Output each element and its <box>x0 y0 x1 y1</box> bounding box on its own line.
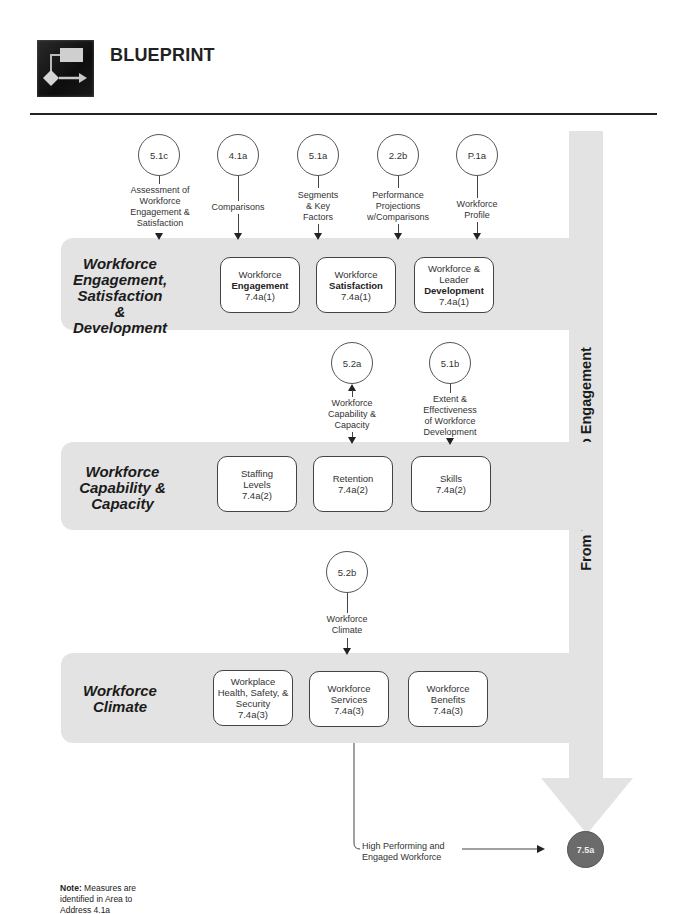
input-label-profile: Workforce Profile <box>442 199 512 221</box>
measure-box-satisfaction[interactable]: Workforce Satisfaction 7.4a(1) <box>316 257 396 313</box>
ref-circle-2-2b[interactable]: 2.2b <box>377 134 419 176</box>
connector <box>238 214 239 233</box>
input-label-effectiveness: Extent & Effectiveness of Workforce Deve… <box>410 394 490 438</box>
connector <box>318 224 319 233</box>
result-circle-7-5a[interactable]: 7.5a <box>567 831 604 868</box>
header-divider <box>30 113 657 115</box>
connector <box>347 638 348 648</box>
ref-circle-p-1a[interactable]: P.1a <box>456 134 498 176</box>
connector <box>477 176 478 198</box>
connector <box>347 593 348 613</box>
input-label-capability: Workforce Capability & Capacity <box>317 398 387 431</box>
arrow-down-icon <box>473 233 481 240</box>
arrow-down-icon <box>446 438 454 445</box>
ref-circle-5-2b[interactable]: 5.2b <box>326 551 368 593</box>
arrow-down-icon <box>314 233 322 240</box>
ref-circle-5-1a[interactable]: 5.1a <box>297 134 339 176</box>
flow-arrowhead-icon <box>541 778 633 834</box>
band-label-climate: Workforce Climate <box>75 683 165 715</box>
input-label-comparisons: Comparisons <box>198 202 278 213</box>
connector <box>398 224 399 233</box>
ref-circle-5-1c[interactable]: 5.1c <box>138 134 180 176</box>
connector <box>238 176 239 201</box>
output-label: High Performing and Engaged Workforce <box>362 841 462 863</box>
arrow-down-icon <box>234 233 242 240</box>
measure-box-health-safety[interactable]: Workplace Health, Safety, & Security 7.4… <box>213 670 293 726</box>
band-label-engagement: Workforce Engagement, Satisfaction & Dev… <box>70 256 170 336</box>
input-label-segments: Segments & Key Factors <box>283 190 353 223</box>
arrow-down-icon <box>343 648 351 655</box>
ref-circle-5-1b[interactable]: 5.1b <box>429 342 471 384</box>
input-label-assessment: Assessment of Workforce Engagement & Sat… <box>114 185 206 229</box>
ref-circle-5-2a[interactable]: 5.2a <box>331 342 373 384</box>
measure-box-benefits[interactable]: Workforce Benefits 7.4a(3) <box>408 671 488 727</box>
connector <box>477 222 478 233</box>
flowchart-icon <box>37 40 94 97</box>
measure-box-skills[interactable]: Skills 7.4a(2) <box>411 456 491 512</box>
measure-box-development[interactable]: Workforce & Leader Development 7.4a(1) <box>414 257 494 313</box>
connector <box>398 176 399 188</box>
input-label-performance: Performance Projections w/Comparisons <box>348 190 448 223</box>
page-title: BLUEPRINT <box>110 45 215 66</box>
ref-circle-4-1a[interactable]: 4.1a <box>217 134 259 176</box>
measure-box-retention[interactable]: Retention 7.4a(2) <box>313 456 393 512</box>
connector <box>318 176 319 188</box>
connector <box>352 390 353 397</box>
footnote: Note: Measures are identified in Area to… <box>60 883 160 914</box>
measure-box-engagement[interactable]: Workforce Engagement 7.4a(1) <box>220 257 300 313</box>
measure-box-staffing[interactable]: Staffing Levels 7.4a(2) <box>217 456 297 512</box>
arrow-down-icon <box>394 233 402 240</box>
input-label-climate: Workforce Climate <box>312 614 382 636</box>
arrow-down-icon <box>348 437 356 444</box>
connector <box>450 384 451 393</box>
blueprint-logo-icon <box>37 40 94 97</box>
connector <box>159 176 160 184</box>
measure-box-services[interactable]: Workforce Services 7.4a(3) <box>309 671 389 727</box>
band-label-capability: Workforce Capability & Capacity <box>75 464 170 512</box>
output-connector <box>350 743 550 853</box>
arrow-down-icon <box>155 233 163 240</box>
